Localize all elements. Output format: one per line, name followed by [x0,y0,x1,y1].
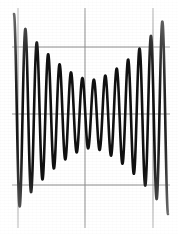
waveform-plot [0,0,178,234]
waveform-figure [0,0,178,234]
